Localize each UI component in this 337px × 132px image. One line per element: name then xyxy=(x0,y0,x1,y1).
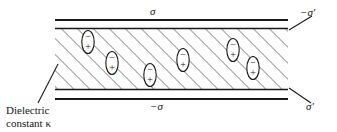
dielectric-capacitor-figure: −+−+−+−+−+−+ σ −σ −σ′ σ′ Dielectric cons… xyxy=(0,0,337,132)
kappa-symbol: κ xyxy=(45,117,51,129)
molecular-dipole: −+ xyxy=(106,52,118,75)
dipole-negative-sign: − xyxy=(250,57,256,68)
dielectric-caption-line2-text: constant xyxy=(6,117,45,129)
dielectric-caption: Dielectric constant κ xyxy=(6,104,51,129)
dipole-positive-sign: + xyxy=(230,49,236,60)
label-free-charge-top: σ xyxy=(150,6,155,17)
dipole-positive-sign: + xyxy=(180,59,186,70)
dipole-positive-sign: + xyxy=(109,62,115,73)
molecular-dipole: −+ xyxy=(82,31,94,54)
molecular-dipole: −+ xyxy=(144,64,156,87)
dipole-positive-sign: + xyxy=(147,74,153,85)
molecular-dipole: −+ xyxy=(247,57,259,80)
dipole-negative-sign: − xyxy=(230,39,236,50)
dipole-negative-sign: − xyxy=(109,52,115,63)
dipole-positive-sign: + xyxy=(250,67,256,78)
dipole-negative-sign: − xyxy=(180,49,186,60)
dielectric-caption-line2: constant κ xyxy=(6,117,51,130)
dipole-negative-sign: − xyxy=(147,64,153,75)
molecular-dipole: −+ xyxy=(227,39,239,62)
label-bound-charge-top: −σ′ xyxy=(300,7,315,18)
dipole-positive-sign: + xyxy=(85,41,91,52)
label-free-charge-bottom: −σ xyxy=(150,101,163,112)
molecular-dipole: −+ xyxy=(177,49,189,72)
dielectric-caption-line1: Dielectric xyxy=(6,104,51,117)
bound-top-leader-line xyxy=(289,16,312,30)
dipole-negative-sign: − xyxy=(85,31,91,42)
label-bound-charge-bottom: σ′ xyxy=(306,101,314,112)
